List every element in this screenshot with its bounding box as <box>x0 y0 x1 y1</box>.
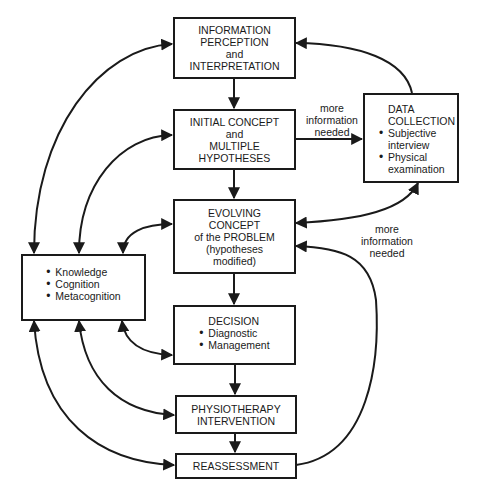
bullet-item: Diagnostic <box>199 327 269 339</box>
edge-label-more-info-initial: more information needed <box>300 102 364 138</box>
bullet-item: Management <box>199 339 269 351</box>
label-text: more <box>355 223 419 235</box>
node-text: and <box>226 48 244 60</box>
node-decision: DECISION Diagnostic Management <box>173 305 296 365</box>
node-evolving-concept: EVOLVING CONCEPT of the PROBLEM (hypothe… <box>173 199 296 274</box>
arrow-data-to-info <box>296 43 412 93</box>
node-text: INITIAL CONCEPT <box>190 116 279 128</box>
node-initial-concept: INITIAL CONCEPT and MULTIPLE HYPOTHESES <box>173 109 296 170</box>
bullet-item-continuation: examination <box>379 163 445 175</box>
node-text: CONCEPT <box>209 219 260 231</box>
label-text: needed <box>300 126 364 138</box>
label-text: information <box>355 235 419 247</box>
bullet-item: Knowledge <box>46 266 120 278</box>
arrow-reassessment-to-evolving <box>296 246 377 465</box>
label-text: information <box>300 114 364 126</box>
node-text: HYPOTHESES <box>199 152 271 164</box>
node-title: COLLECTION <box>379 115 455 127</box>
node-text: EVOLVING <box>208 207 261 219</box>
bullet-item: Subjective <box>379 127 436 139</box>
node-text: of the PROBLEM <box>194 231 275 243</box>
bullet-item: Metacognition <box>46 290 120 302</box>
node-text: INTERVENTION <box>197 415 275 427</box>
node-title: DECISION <box>199 315 269 327</box>
edge-label-more-info-evolving: more information needed <box>355 223 419 259</box>
node-text: MULTIPLE <box>209 140 260 152</box>
arrow-evolving-data <box>296 183 418 223</box>
arrow-knowledge-reassessment <box>34 321 174 465</box>
node-text: REASSESSMENT <box>193 460 279 472</box>
bullet-item: Physical <box>379 151 427 163</box>
label-text: needed <box>355 247 419 259</box>
node-data-collection: DATA COLLECTION Subjective interview Phy… <box>363 93 459 183</box>
arrow-knowledge-info <box>34 44 172 253</box>
label-text: more <box>300 102 364 114</box>
node-reassessment: REASSESSMENT <box>175 453 297 479</box>
node-information-perception: INFORMATION PERCEPTION and INTERPRETATIO… <box>173 17 296 79</box>
node-text: (hypotheses <box>206 243 263 255</box>
arrow-knowledge-decision <box>122 321 172 355</box>
node-text: and <box>226 128 244 140</box>
node-knowledge-cognition: Knowledge Cognition Metacognition <box>21 254 146 321</box>
node-text: INFORMATION <box>198 24 271 36</box>
node-text: PHYSIOTHERAPY <box>191 403 280 415</box>
bullet-item: Cognition <box>46 278 120 290</box>
node-text: INTERPRETATION <box>189 60 279 72</box>
node-physiotherapy-intervention: PHYSIOTHERAPY INTERVENTION <box>175 395 297 434</box>
node-text: PERCEPTION <box>200 36 268 48</box>
arrow-knowledge-initial <box>79 135 172 253</box>
node-text: modified) <box>213 255 256 267</box>
node-title: DATA <box>379 103 414 115</box>
bullet-item-continuation: interview <box>379 139 429 151</box>
arrow-knowledge-evolving <box>123 224 172 253</box>
